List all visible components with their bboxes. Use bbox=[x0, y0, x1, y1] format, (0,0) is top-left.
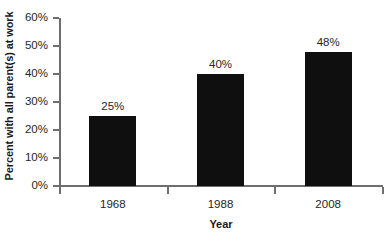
y-tick-mark bbox=[53, 73, 59, 75]
x-tick-label-1968: 1968 bbox=[73, 197, 153, 211]
y-tick-label: 50% bbox=[0, 39, 48, 51]
y-tick-mark bbox=[53, 45, 59, 47]
bar-2008 bbox=[305, 52, 352, 186]
bar-1968 bbox=[89, 116, 136, 186]
y-tick-mark bbox=[53, 101, 59, 103]
x-tick-mark bbox=[382, 187, 384, 194]
bar-value-label-2008: 48% bbox=[298, 36, 358, 49]
bar-1988 bbox=[197, 74, 244, 186]
y-tick-mark bbox=[53, 17, 59, 19]
y-tick-label: 30% bbox=[0, 95, 48, 107]
y-tick-label: 60% bbox=[0, 11, 48, 23]
x-tick-label-1988: 1988 bbox=[181, 197, 261, 211]
y-tick-mark bbox=[53, 157, 59, 159]
bar-value-label-1968: 25% bbox=[83, 100, 143, 113]
y-tick-label: 10% bbox=[0, 151, 48, 163]
bar-value-label-1988: 40% bbox=[191, 58, 251, 71]
x-tick-mark bbox=[59, 187, 61, 194]
y-tick-mark bbox=[53, 129, 59, 131]
y-tick-label: 40% bbox=[0, 67, 48, 79]
x-tick-mark bbox=[167, 187, 169, 194]
y-axis-line bbox=[59, 18, 61, 187]
x-tick-mark bbox=[274, 187, 276, 194]
x-tick-label-2008: 2008 bbox=[288, 197, 368, 211]
y-tick-label: 20% bbox=[0, 123, 48, 135]
bar-chart: Percent with all parent(s) at work 0%10%… bbox=[0, 0, 389, 243]
y-tick-label: 0% bbox=[0, 179, 48, 191]
x-axis-title: Year bbox=[59, 217, 383, 231]
